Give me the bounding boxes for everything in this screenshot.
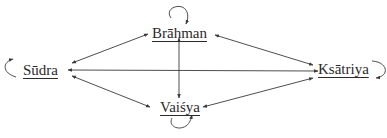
edge-sudra-ksatriya bbox=[68, 70, 318, 71]
self-loop-sudra bbox=[5, 59, 16, 77]
self-loop-ksatriya bbox=[372, 61, 385, 78]
node-ksatriya: Ksātriya bbox=[318, 62, 369, 77]
node-vaisya: Vaiśya bbox=[160, 100, 200, 115]
edge-sudra-vaisya bbox=[72, 76, 150, 107]
node-sudra: Sūdra bbox=[23, 63, 58, 78]
self-loop-brahman bbox=[169, 6, 187, 24]
self-loop-vaisya bbox=[171, 115, 192, 128]
edge-vaisya-ksatriya bbox=[203, 78, 313, 107]
edge-brahman-ksatriya bbox=[215, 35, 313, 65]
edge-sudra-brahman bbox=[72, 34, 148, 63]
node-brahman: Brāhman bbox=[152, 26, 207, 41]
